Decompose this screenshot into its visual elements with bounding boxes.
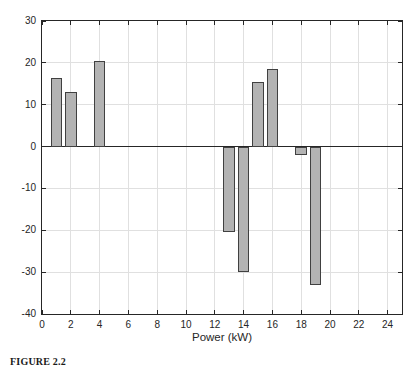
y-tick-mark-right [398, 21, 402, 22]
gridline-vertical [186, 21, 187, 314]
gridline-vertical [128, 21, 129, 314]
y-tick-mark [42, 104, 46, 105]
x-tick-mark-top [358, 21, 359, 25]
y-tick-mark [42, 62, 46, 63]
x-tick-label: 18 [296, 319, 307, 330]
x-tick-label: 0 [39, 319, 45, 330]
x-tick-mark [128, 310, 129, 314]
x-tick-mark [186, 310, 187, 314]
y-tick-mark-right [398, 188, 402, 189]
y-tick-label: -40 [2, 308, 36, 319]
y-tick-label: 0 [2, 141, 36, 152]
x-tick-mark-top [42, 21, 43, 25]
gridline-vertical [330, 21, 331, 314]
x-tick-mark-top [128, 21, 129, 25]
x-tick-label: 6 [126, 319, 132, 330]
x-tick-mark [70, 310, 71, 314]
y-tick-label: -10 [2, 182, 36, 193]
y-tick-mark [42, 272, 46, 273]
gridline-vertical [214, 21, 215, 314]
gridline-vertical [358, 21, 359, 314]
x-tick-mark-top [301, 21, 302, 25]
gridline-horizontal [42, 230, 402, 231]
x-tick-label: 10 [180, 319, 191, 330]
y-tick-mark-right [398, 314, 402, 315]
x-tick-label: 20 [324, 319, 335, 330]
x-tick-label: 12 [209, 319, 220, 330]
x-tick-label: 22 [353, 319, 364, 330]
y-tick-mark-right [398, 104, 402, 105]
bar [51, 78, 63, 147]
y-tick-mark-right [398, 230, 402, 231]
figure-caption: FIGURE 2.2 [10, 356, 415, 367]
y-tick-label: -30 [2, 266, 36, 277]
x-tick-mark-top [157, 21, 158, 25]
gridline-vertical [70, 21, 71, 314]
y-tick-mark [42, 188, 46, 189]
x-tick-mark-top [214, 21, 215, 25]
bar [267, 69, 279, 146]
y-tick-mark-right [398, 272, 402, 273]
y-tick-label: 20 [2, 57, 36, 68]
x-tick-mark-top [272, 21, 273, 25]
x-tick-mark [387, 310, 388, 314]
x-tick-mark [243, 310, 244, 314]
bar [94, 61, 106, 147]
x-tick-label: 4 [97, 319, 103, 330]
caption-label: FIGURE 2.2 [10, 356, 66, 367]
figure: Power (kW) FIGURE 2.2 024681012141618202… [0, 0, 420, 368]
y-tick-mark [42, 146, 46, 147]
y-tick-mark [42, 230, 46, 231]
gridline-horizontal [42, 272, 402, 273]
x-tick-mark [358, 310, 359, 314]
plot-area [41, 20, 403, 315]
x-tick-mark-top [186, 21, 187, 25]
x-tick-mark-top [243, 21, 244, 25]
y-tick-mark-right [398, 62, 402, 63]
bar [65, 92, 77, 146]
x-tick-label: 24 [382, 319, 393, 330]
y-tick-mark [42, 314, 46, 315]
x-tick-mark-top [330, 21, 331, 25]
x-tick-mark-top [70, 21, 71, 25]
bar [223, 147, 235, 233]
x-tick-label: 16 [267, 319, 278, 330]
x-tick-label: 8 [154, 319, 160, 330]
x-tick-mark-top [99, 21, 100, 25]
gridline-vertical [157, 21, 158, 314]
y-tick-label: 30 [2, 15, 36, 26]
y-tick-label: -20 [2, 224, 36, 235]
y-tick-mark [42, 21, 46, 22]
x-axis-label: Power (kW) [41, 331, 403, 343]
x-tick-mark [330, 310, 331, 314]
gridline-vertical [301, 21, 302, 314]
y-tick-mark-right [398, 146, 402, 147]
x-tick-label: 14 [238, 319, 249, 330]
x-tick-mark [157, 310, 158, 314]
x-tick-mark [99, 310, 100, 314]
bar [238, 147, 250, 273]
x-tick-label: 2 [68, 319, 74, 330]
x-tick-mark [272, 310, 273, 314]
y-tick-label: 10 [2, 99, 36, 110]
bar [295, 147, 307, 155]
bar [252, 82, 264, 147]
gridline-vertical [272, 21, 273, 314]
x-tick-mark-top [387, 21, 388, 25]
gridline-vertical [387, 21, 388, 314]
gridline-horizontal [42, 188, 402, 189]
x-tick-mark [301, 310, 302, 314]
bar [310, 147, 322, 285]
x-tick-mark [214, 310, 215, 314]
